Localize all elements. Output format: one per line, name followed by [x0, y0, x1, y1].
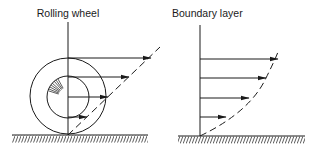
ground-left [12, 135, 148, 143]
boundary-velocity-arrows [200, 59, 278, 117]
wheel-velocity-arrows [68, 58, 151, 117]
boundary-velocity-profile [200, 52, 278, 136]
boundary-layer-panel: Boundary layer [172, 7, 305, 144]
ground-right [178, 136, 305, 144]
boundary-layer-label: Boundary layer [172, 7, 243, 19]
diagram-canvas: Rolling wheel [0, 0, 317, 155]
rotation-sector-hatch [49, 79, 78, 107]
rolling-wheel-panel: Rolling wheel [12, 7, 160, 143]
rolling-wheel-label: Rolling wheel [37, 7, 99, 19]
